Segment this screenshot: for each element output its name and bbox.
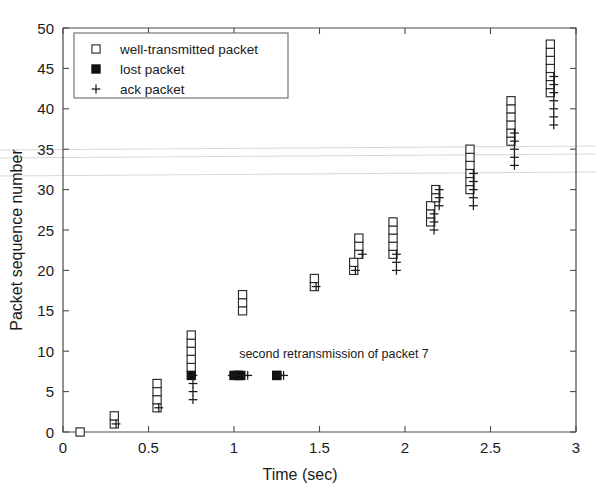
marker-well-transmitted-packet: [507, 121, 515, 129]
marker-well-transmitted-packet: [507, 105, 515, 113]
y-tick-label: 35: [37, 141, 54, 158]
marker-well-transmitted-packet: [466, 153, 474, 161]
y-tick-label: 30: [37, 181, 54, 198]
marker-well-transmitted-packet: [546, 56, 554, 64]
y-tick-label: 15: [37, 302, 54, 319]
marker-well-transmitted-packet: [110, 412, 118, 420]
y-tick-label: 40: [37, 100, 54, 117]
x-tick-label: 3: [572, 439, 580, 456]
x-axis-title: Time (sec): [263, 466, 338, 483]
marker-well-transmitted-packet: [389, 226, 397, 234]
chart-legend: well-transmitted packetlost packetack pa…: [74, 33, 288, 98]
marker-well-transmitted-packet: [238, 291, 246, 299]
y-tick-label: 50: [37, 20, 54, 37]
chart-annotations: second retransmission of packet 7: [239, 347, 429, 361]
packet-sequence-scatter-figure: 00.511.522.53 05101520253035404550 Time …: [0, 0, 596, 492]
marker-well-transmitted-packet: [389, 218, 397, 226]
marker-well-transmitted-packet: [187, 347, 195, 355]
marker-well-transmitted-packet: [76, 428, 84, 436]
marker-well-transmitted-packet: [350, 258, 358, 266]
x-tick-label: 0.5: [138, 439, 159, 456]
marker-well-transmitted-packet: [310, 274, 318, 282]
x-tick-label: 2: [401, 439, 409, 456]
marker-well-transmitted-packet: [389, 234, 397, 242]
annotation-second-retransmission: second retransmission of packet 7: [239, 347, 429, 361]
marker-well-transmitted-packet: [466, 161, 474, 169]
chart-canvas: 00.511.522.53 05101520253035404550 Time …: [0, 0, 596, 492]
marker-well-transmitted-packet: [546, 64, 554, 72]
legend-marker-well-transmitted: [92, 45, 100, 53]
marker-well-transmitted-packet: [355, 234, 363, 242]
marker-well-transmitted-packet: [153, 396, 161, 404]
marker-well-transmitted-packet: [153, 379, 161, 387]
marker-well-transmitted-packet: [187, 331, 195, 339]
x-tick-label: 0: [59, 439, 67, 456]
legend-label-lost: lost packet: [120, 62, 185, 77]
marker-well-transmitted-packet: [389, 242, 397, 250]
marker-well-transmitted-packet: [187, 355, 195, 363]
marker-well-transmitted-packet: [187, 339, 195, 347]
marker-well-transmitted-packet: [507, 113, 515, 121]
marker-well-transmitted-packet: [238, 299, 246, 307]
y-axis-title: Packet sequence number: [8, 149, 25, 331]
marker-well-transmitted-packet: [238, 307, 246, 315]
legend-marker-lost: [92, 65, 100, 73]
y-tick-label: 0: [46, 424, 54, 441]
marker-well-transmitted-packet: [187, 363, 195, 371]
x-tick-label: 1.5: [309, 439, 330, 456]
marker-well-transmitted-packet: [355, 242, 363, 250]
marker-well-transmitted-packet: [153, 388, 161, 396]
x-tick-label: 1: [230, 439, 238, 456]
y-tick-label: 25: [37, 222, 54, 239]
y-tick-label: 45: [37, 60, 54, 77]
marker-well-transmitted-packet: [507, 97, 515, 105]
legend-label-well-transmitted: well-transmitted packet: [119, 42, 258, 57]
x-tick-label: 2.5: [480, 439, 501, 456]
marker-well-transmitted-packet: [546, 40, 554, 48]
y-tick-label: 20: [37, 262, 54, 279]
marker-well-transmitted-packet: [546, 48, 554, 56]
y-tick-label: 10: [37, 343, 54, 360]
marker-well-transmitted-packet: [427, 202, 435, 210]
marker-well-transmitted-packet: [466, 145, 474, 153]
y-tick-label: 5: [46, 383, 54, 400]
legend-label-ack: ack packet: [120, 82, 185, 97]
